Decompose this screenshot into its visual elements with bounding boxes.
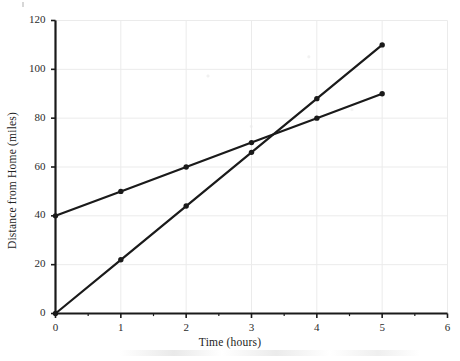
x-tick-label: 3 <box>242 321 262 333</box>
series-line-2 <box>56 45 383 314</box>
line-chart-figure: 020406080100120 0123456 Distance from Ho… <box>0 0 460 361</box>
x-tick-label: 1 <box>111 321 131 333</box>
x-tick-label: 6 <box>438 321 458 333</box>
gridlines <box>56 21 448 314</box>
series-line-1 <box>56 94 383 216</box>
data-point-marker <box>314 96 319 101</box>
data-point-marker <box>249 150 254 155</box>
x-tick-label: 0 <box>46 321 66 333</box>
data-series <box>53 42 385 316</box>
data-point-marker <box>314 115 319 120</box>
data-point-marker <box>249 140 254 145</box>
data-point-marker <box>53 311 58 316</box>
data-point-marker <box>118 189 123 194</box>
data-point-marker <box>379 42 384 47</box>
data-point-marker <box>118 257 123 262</box>
data-point-marker <box>183 203 188 208</box>
x-tick-label: 5 <box>372 321 392 333</box>
data-point-marker <box>53 213 58 218</box>
data-point-marker <box>183 164 188 169</box>
data-point-marker <box>379 91 384 96</box>
y-axis-title: Distance from Home (miles) <box>0 0 24 361</box>
chart-canvas <box>0 0 460 361</box>
x-tick-label: 2 <box>176 321 196 333</box>
axis-ticks <box>51 21 448 319</box>
x-axis-title: Time (hours) <box>0 336 460 348</box>
x-tick-label: 4 <box>307 321 327 333</box>
